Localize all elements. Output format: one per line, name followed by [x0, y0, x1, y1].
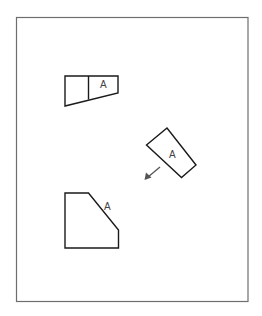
top-view-outline	[65, 76, 118, 106]
top-view-label: A	[100, 79, 107, 90]
drawing-canvas: A A A	[0, 0, 262, 316]
top-view: A	[65, 76, 118, 106]
arrow-shaft	[148, 167, 160, 177]
front-view: A	[65, 193, 119, 248]
view-direction-arrow	[145, 167, 161, 180]
auxiliary-view-label: A	[169, 149, 176, 160]
arrow-head-icon	[145, 173, 152, 181]
drawing-frame	[17, 18, 249, 302]
auxiliary-view: A	[147, 128, 197, 178]
front-view-label: A	[104, 201, 111, 212]
